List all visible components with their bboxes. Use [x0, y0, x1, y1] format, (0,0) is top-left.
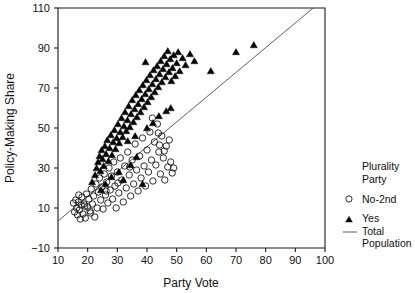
data-point-no-2nd: [92, 214, 98, 220]
data-point-no-2nd: [132, 141, 138, 147]
data-point-no-2nd: [98, 197, 104, 203]
data-point-no-2nd: [100, 206, 106, 212]
data-point-no-2nd: [120, 199, 126, 205]
filled-triangle-icon: [346, 216, 353, 222]
data-point-yes: [121, 109, 128, 115]
data-point-yes: [125, 103, 132, 109]
data-point-yes: [133, 154, 140, 160]
data-point-yes: [115, 169, 122, 175]
data-point-no-2nd: [138, 175, 144, 181]
data-point-no-2nd: [141, 163, 147, 169]
y-tick-label: 30: [38, 162, 50, 174]
data-point-yes: [89, 179, 96, 185]
x-tick-label: 50: [171, 254, 183, 266]
x-tick-label: 100: [316, 254, 334, 266]
x-tick-label: 90: [289, 254, 301, 266]
legend-label-population: Population: [362, 237, 412, 249]
data-point-yes: [207, 68, 214, 74]
data-point-yes: [108, 152, 115, 158]
data-point-no-2nd: [157, 171, 163, 177]
open-circle-icon: [346, 196, 352, 202]
legend-title-line1: Plurality: [362, 160, 400, 172]
data-point-no-2nd: [162, 177, 168, 183]
x-axis-title: Party Vote: [163, 276, 219, 290]
data-point-no-2nd: [168, 159, 174, 165]
data-point-yes: [111, 127, 118, 133]
data-point-yes: [175, 49, 182, 55]
y-axis-ticks: −101030507090110: [31, 2, 58, 254]
y-tick-label: 110: [32, 2, 50, 14]
data-point-yes: [118, 115, 125, 121]
data-point-yes: [232, 49, 239, 55]
data-point-no-2nd: [109, 196, 115, 202]
data-point-yes: [139, 181, 146, 187]
data-point-yes: [182, 62, 189, 68]
data-point-yes: [142, 59, 149, 65]
data-point-no-2nd: [126, 172, 132, 178]
legend-label-yes: Yes: [362, 212, 379, 224]
data-point-no-2nd: [135, 188, 141, 194]
data-point-no-2nd: [88, 186, 94, 192]
data-point-no-2nd: [127, 193, 133, 199]
data-point-no-2nd: [153, 162, 159, 168]
data-point-no-2nd: [125, 149, 131, 155]
x-tick-label: 10: [52, 254, 64, 266]
data-point-yes: [176, 68, 183, 74]
plot-svg: −101030507090110 102030405060708090100 P…: [0, 0, 415, 293]
data-point-no-2nd: [160, 155, 166, 161]
data-point-yes: [120, 177, 127, 183]
data-point-yes: [250, 42, 257, 48]
data-point-no-2nd: [130, 181, 136, 187]
x-tick-label: 20: [82, 254, 94, 266]
data-point-no-2nd: [94, 205, 100, 211]
data-point-yes: [132, 133, 139, 139]
plot-frame: [58, 8, 325, 248]
data-point-yes: [114, 121, 121, 127]
y-axis-title: Policy-Making Share: [3, 73, 17, 183]
data-point-yes: [112, 146, 119, 152]
x-tick-label: 80: [260, 254, 272, 266]
data-point-no-2nd: [156, 142, 162, 148]
y-tick-label: 10: [38, 202, 50, 214]
y-tick-label: −10: [31, 242, 50, 254]
data-point-no-2nd: [166, 137, 172, 143]
legend-label-total: Total: [362, 225, 384, 237]
data-point-yes: [179, 55, 186, 61]
scatter-plot-figure: −101030507090110 102030405060708090100 P…: [0, 0, 415, 293]
data-point-no-2nd: [139, 135, 145, 141]
data-point-yes: [164, 48, 171, 54]
data-point-no-2nd: [117, 155, 123, 161]
y-tick-label: 70: [38, 82, 50, 94]
x-tick-label: 60: [200, 254, 212, 266]
data-point-yes: [167, 105, 174, 111]
x-tick-label: 70: [230, 254, 242, 266]
legend: Plurality Party No-2nd Yes Total Populat…: [343, 160, 412, 249]
data-point-no-2nd: [144, 147, 150, 153]
data-point-yes: [101, 143, 108, 149]
y-tick-label: 90: [38, 42, 50, 54]
data-point-no-2nd: [123, 185, 129, 191]
x-tick-label: 30: [111, 254, 123, 266]
data-point-yes: [186, 51, 193, 57]
data-point-no-2nd: [111, 159, 117, 165]
data-point-no-2nd: [150, 178, 156, 184]
y-tick-label: 50: [38, 122, 50, 134]
data-point-no-2nd: [103, 188, 109, 194]
data-point-yes: [124, 117, 131, 123]
data-point-yes: [191, 58, 198, 64]
data-point-no-2nd: [145, 169, 151, 175]
series-no-2nd-points: [70, 115, 177, 222]
data-point-no-2nd: [116, 190, 122, 196]
x-axis-ticks: 102030405060708090100: [52, 248, 334, 266]
x-tick-label: 40: [141, 254, 153, 266]
data-point-yes: [155, 113, 162, 119]
legend-title-line2: Party: [362, 173, 387, 185]
data-point-no-2nd: [113, 205, 119, 211]
legend-label-no-2nd: No-2nd: [362, 193, 397, 205]
